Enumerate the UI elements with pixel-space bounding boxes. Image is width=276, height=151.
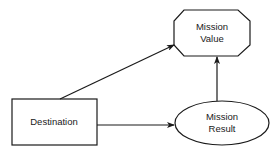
arrow-destination-to-mission-value — [60, 45, 174, 99]
mission-result-node: Mission Result — [175, 101, 269, 145]
destination-node: Destination — [12, 99, 97, 145]
mission-value-label-line2: Value — [200, 33, 224, 44]
mission-result-label-line2: Result — [209, 123, 236, 134]
mission-result-label-line1: Mission — [206, 111, 238, 122]
mission-value-label-line1: Mission — [196, 21, 228, 32]
influence-diagram: Mission Value Destination Mission Result — [0, 0, 276, 151]
mission-value-node: Mission Value — [174, 10, 250, 56]
destination-label: Destination — [30, 116, 78, 127]
